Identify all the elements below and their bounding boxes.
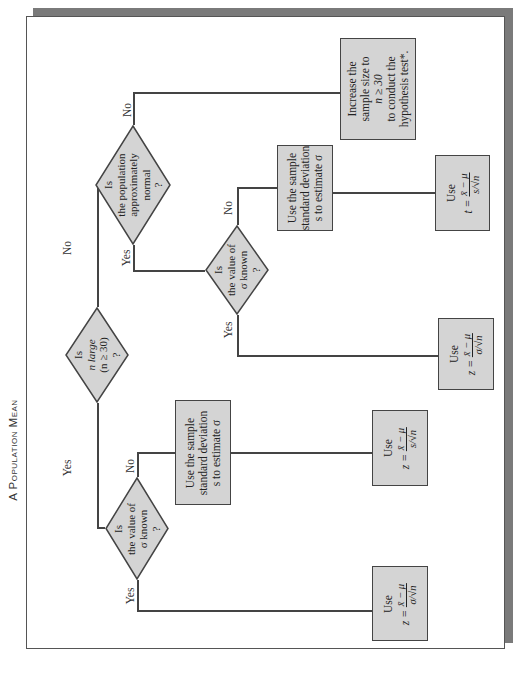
fraction: x̄ − μ s/√n xyxy=(395,427,418,451)
decision-n-large: Is n large (n ≥ 30) ? xyxy=(65,307,129,403)
formula-t: Use t = x̄ − μ s/√n xyxy=(445,173,481,214)
fraction: x̄ − μ s/√n xyxy=(458,173,481,197)
edge-root-yes xyxy=(97,403,99,528)
edge-right-sd-to-t xyxy=(333,192,435,194)
figure-title: A Population Mean xyxy=(4,330,22,570)
edge-left-sd-to-z xyxy=(230,452,372,454)
label-left-sigma-no: No xyxy=(124,459,136,473)
formula-z-sigma-right: Use z = x̄ − μ σ/√n xyxy=(448,333,484,375)
label-normal-no: No xyxy=(121,103,133,117)
frame-shadow-right xyxy=(504,8,513,643)
label-normal-yes: Yes xyxy=(120,250,132,267)
result-right-use-t: Use t = x̄ − μ s/√n xyxy=(435,155,490,231)
label-root-no: No xyxy=(61,241,73,255)
edge-left-sigma-no xyxy=(137,452,139,477)
label-right-sigma-no: No xyxy=(222,201,234,215)
formula-z-sigma: Use z = x̄ − μ σ/√n xyxy=(382,582,418,624)
process-right-use-sample-sd-text: Use the sample standard deviation s to e… xyxy=(286,146,325,231)
decision-population-normal: Is the population approximately normal ? xyxy=(95,125,171,245)
decision-left-sigma-known: Is the value of σ known ? xyxy=(105,477,169,580)
edge-normal-yes-h xyxy=(133,270,205,272)
process-left-use-sample-sd-text: Use the sample standard deviation s to e… xyxy=(184,410,223,495)
formula-z-s: Use z = x̄ − μ s/√n xyxy=(382,427,418,469)
edge-right-sigma-no xyxy=(237,187,239,225)
process-increase-sample-size-text: Increase the sample size to n ≥ 30 to co… xyxy=(346,51,411,128)
result-left-use-z-s: Use z = x̄ − μ s/√n xyxy=(372,410,428,486)
edge-root-yes-h xyxy=(97,527,105,529)
decision-population-normal-text: Is the population approximately normal ? xyxy=(102,153,165,217)
fraction: x̄ − μ σ/√n xyxy=(395,582,418,606)
label-right-sigma-yes: Yes xyxy=(222,322,234,339)
result-left-use-z-sigma: Use z = x̄ − μ σ/√n xyxy=(372,566,428,641)
result-right-use-z-sigma: Use z = x̄ − μ σ/√n xyxy=(438,318,494,390)
edge-left-sigma-no-h xyxy=(137,452,175,454)
edge-right-sigma-no-h xyxy=(237,187,277,189)
figure-title-text: A Population Mean xyxy=(7,399,19,500)
process-left-use-sample-sd: Use the sample standard deviation s to e… xyxy=(175,400,231,505)
process-increase-sample-size: Increase the sample size to n ≥ 30 to co… xyxy=(340,38,416,140)
decision-right-sigma-known: Is the value of σ known ? xyxy=(205,225,269,315)
decision-left-sigma-known-text: Is the value of σ known ? xyxy=(112,503,162,555)
process-right-use-sample-sd: Use the sample standard deviation s to e… xyxy=(277,145,333,231)
edge-right-sigma-yes-h xyxy=(237,355,440,357)
edge-right-sigma-yes xyxy=(237,315,239,355)
edge-normal-no xyxy=(133,92,135,125)
decision-n-large-text: Is n large (n ≥ 30) ? xyxy=(72,337,122,372)
edge-normal-yes xyxy=(133,245,135,271)
label-left-sigma-yes: Yes xyxy=(124,588,136,605)
edge-left-sigma-yes xyxy=(137,580,139,611)
fraction: x̄ − μ σ/√n xyxy=(461,333,484,357)
edge-left-sigma-yes-h xyxy=(137,610,372,612)
label-root-yes: Yes xyxy=(61,460,73,477)
edge-normal-no-h xyxy=(133,92,340,94)
decision-right-sigma-known-text: Is the value of σ known ? xyxy=(212,244,262,296)
